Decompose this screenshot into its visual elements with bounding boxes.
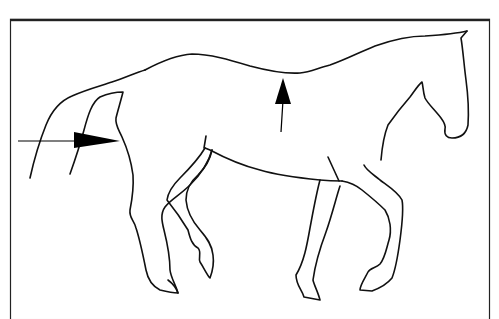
fore-leg-far [296, 180, 340, 300]
tail-inner [70, 92, 178, 293]
head-outline [381, 31, 468, 160]
belly-outline [205, 148, 342, 181]
hind-leg-near [167, 148, 213, 278]
horse-diagram [0, 0, 499, 319]
back-lift-arrow [275, 78, 291, 132]
back-outline [145, 31, 467, 73]
fore-leg-near [342, 165, 403, 291]
figure-frame [11, 20, 490, 319]
shoulder-line [204, 136, 206, 148]
elbow-line [328, 157, 339, 181]
hindquarter-push-arrow [18, 132, 120, 148]
tail-outline [30, 70, 145, 178]
